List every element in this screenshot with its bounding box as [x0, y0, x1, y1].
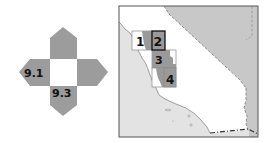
index-box-1[interactable]: 1: [132, 31, 152, 50]
index-box-2-current[interactable]: 2: [152, 31, 165, 50]
california-index-map: 1 3 4 2: [0, 0, 266, 143]
index-box-4[interactable]: 4: [152, 68, 176, 87]
island: [172, 120, 173, 121]
svg-text:2: 2: [154, 34, 163, 49]
svg-text:1: 1: [136, 35, 144, 49]
index-box-3[interactable]: 3: [152, 50, 176, 68]
svg-text:4: 4: [166, 73, 174, 87]
svg-text:3: 3: [155, 54, 163, 67]
